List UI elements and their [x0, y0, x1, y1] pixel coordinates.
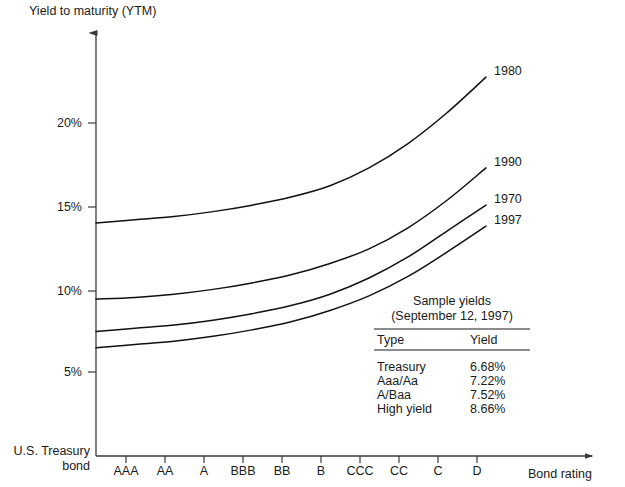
table-cell-yield: 7.22%: [470, 374, 505, 388]
table-column-header-type: Type: [377, 333, 404, 347]
y-tick-group: 5% 10% 15% 20%: [57, 116, 96, 379]
bond-yield-chart: Yield to maturity (YTM) Bond rating 5% 1…: [0, 0, 625, 487]
table-cell-type: Treasury: [377, 360, 427, 374]
y-tick-label-10: 10%: [57, 284, 82, 298]
table-row: High yield 8.66%: [377, 402, 505, 416]
sample-yields-table: Sample yields (September 12, 1997) Type …: [374, 294, 530, 416]
y-tick-label-15: 15%: [57, 200, 82, 214]
table-cell-yield: 8.66%: [470, 402, 505, 416]
table-title-line1: Sample yields: [413, 294, 491, 308]
table-cell-yield: 7.52%: [470, 388, 505, 402]
y-tick-label-20: 20%: [57, 116, 82, 130]
table-cell-type: Aaa/Aa: [377, 374, 418, 388]
table-row: Treasury 6.68%: [377, 360, 505, 374]
origin-label-line1: U.S. Treasury: [14, 444, 91, 458]
table-title-line2: (September 12, 1997): [391, 309, 513, 323]
table-row: Aaa/Aa 7.22%: [377, 374, 505, 388]
y-axis-title: Yield to maturity (YTM): [29, 4, 156, 18]
series-curve-1980: [96, 77, 486, 223]
series-label-1970: 1970: [494, 192, 522, 206]
table-cell-yield: 6.68%: [470, 360, 505, 374]
table-row: A/Baa 7.52%: [377, 388, 505, 402]
x-tick-label-aa: AA: [157, 464, 174, 478]
chart-canvas: Yield to maturity (YTM) Bond rating 5% 1…: [0, 0, 625, 487]
series-label-1997: 1997: [494, 213, 522, 227]
table-cell-type: High yield: [377, 402, 432, 416]
origin-label-line2: bond: [62, 459, 90, 473]
x-tick-label-cc: CC: [390, 464, 408, 478]
series-label-1980: 1980: [494, 64, 522, 78]
series-labels: 1980199019701997: [494, 64, 522, 227]
x-tick-label-b: B: [317, 464, 325, 478]
x-tick-label-c: C: [433, 464, 442, 478]
x-tick-label-a: A: [200, 464, 209, 478]
x-tick-label-ccc: CCC: [346, 464, 373, 478]
series-label-1990: 1990: [494, 155, 522, 169]
table-column-header-yield: Yield: [470, 333, 497, 347]
x-tick-label-aaa: AAA: [113, 464, 139, 478]
table-cell-type: A/Baa: [377, 388, 411, 402]
x-tick-label-d: D: [472, 464, 481, 478]
series-curve-1990: [96, 168, 486, 299]
x-tick-group: AAA AA A BBB BB B CCC CC C D: [113, 456, 481, 478]
x-tick-label-bbb: BBB: [230, 464, 255, 478]
y-tick-label-5: 5%: [64, 365, 82, 379]
x-tick-label-bb: BB: [274, 464, 291, 478]
x-axis-title: Bond rating: [528, 467, 592, 481]
